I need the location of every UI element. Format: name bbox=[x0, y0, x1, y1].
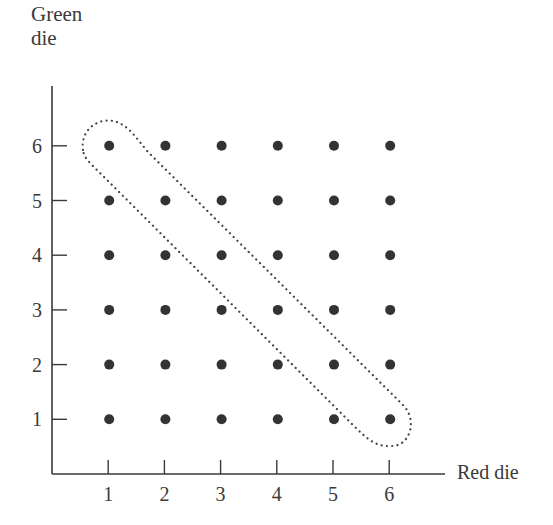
outcome-point bbox=[104, 360, 114, 370]
x-tick-label: 3 bbox=[216, 483, 226, 505]
x-tick-label: 6 bbox=[384, 483, 394, 505]
outcome-point bbox=[385, 414, 395, 424]
data-points bbox=[104, 141, 395, 425]
outcome-point bbox=[273, 414, 283, 424]
outcome-point bbox=[104, 250, 114, 260]
outcome-point bbox=[385, 141, 395, 151]
outcome-point bbox=[273, 250, 283, 260]
y-tick-label: 5 bbox=[32, 190, 42, 212]
outcome-point bbox=[104, 414, 114, 424]
outcome-point bbox=[329, 360, 339, 370]
outcome-point bbox=[160, 141, 170, 151]
outcome-point bbox=[329, 250, 339, 260]
y-tick-label: 6 bbox=[32, 135, 42, 157]
outcome-point bbox=[160, 305, 170, 315]
outcome-point bbox=[385, 250, 395, 260]
outcome-point bbox=[385, 305, 395, 315]
outcome-point bbox=[329, 141, 339, 151]
outcome-point bbox=[160, 414, 170, 424]
outcome-point bbox=[329, 196, 339, 206]
outcome-point bbox=[104, 196, 114, 206]
x-tick-label: 5 bbox=[328, 483, 338, 505]
outcome-point bbox=[329, 305, 339, 315]
outcome-point bbox=[217, 414, 227, 424]
outcome-point bbox=[217, 196, 227, 206]
x-tick-label: 1 bbox=[103, 483, 113, 505]
outcome-point bbox=[160, 196, 170, 206]
dice-outcome-scatter-plot: 123456123456 Red die bbox=[0, 0, 553, 525]
outcome-point bbox=[273, 141, 283, 151]
x-axis-label: Red die bbox=[457, 461, 519, 483]
outcome-point bbox=[160, 250, 170, 260]
outcome-point bbox=[217, 305, 227, 315]
sum-seven-dotted-loop bbox=[83, 120, 411, 446]
outcome-point bbox=[273, 305, 283, 315]
outcome-point bbox=[329, 414, 339, 424]
outcome-point bbox=[217, 250, 227, 260]
outcome-point bbox=[273, 196, 283, 206]
outcome-point bbox=[385, 360, 395, 370]
y-tick-label: 4 bbox=[32, 244, 42, 266]
tick-labels: 123456123456 bbox=[32, 135, 394, 505]
x-tick-label: 2 bbox=[159, 483, 169, 505]
outcome-point bbox=[217, 141, 227, 151]
outcome-point bbox=[104, 141, 114, 151]
outcome-point bbox=[273, 360, 283, 370]
y-tick-label: 2 bbox=[32, 354, 42, 376]
y-tick-label: 3 bbox=[32, 299, 42, 321]
y-tick-label: 1 bbox=[32, 408, 42, 430]
outcome-point bbox=[104, 305, 114, 315]
x-tick-label: 4 bbox=[272, 483, 282, 505]
outcome-point bbox=[385, 196, 395, 206]
outcome-point bbox=[160, 360, 170, 370]
outcome-point bbox=[217, 360, 227, 370]
